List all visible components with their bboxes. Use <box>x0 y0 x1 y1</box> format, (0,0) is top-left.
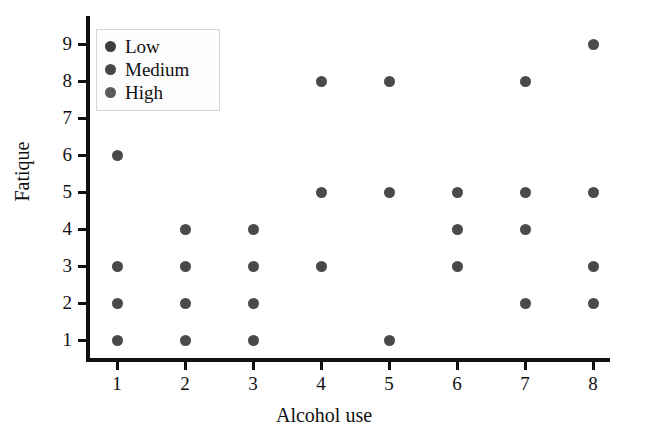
data-point <box>384 335 395 346</box>
legend-item: Medium <box>105 58 213 81</box>
legend: LowMediumHigh <box>96 29 220 111</box>
data-point <box>588 298 599 309</box>
data-point <box>384 187 395 198</box>
y-axis-tick <box>78 80 87 83</box>
data-point <box>588 261 599 272</box>
y-axis-tick <box>78 339 87 342</box>
data-point <box>112 298 123 309</box>
data-point <box>248 224 259 235</box>
x-axis-tick-label: 5 <box>374 374 404 393</box>
data-point <box>112 335 123 346</box>
x-axis-tick <box>252 361 255 370</box>
x-axis-tick-label: 2 <box>170 374 200 393</box>
x-axis-tick-label: 4 <box>306 374 336 393</box>
x-axis-tick-label: 6 <box>442 374 472 393</box>
legend-item: High <box>105 81 213 104</box>
x-axis-tick-label: 8 <box>578 374 608 393</box>
y-axis-tick <box>78 43 87 46</box>
x-axis-tick <box>388 361 391 370</box>
data-point <box>520 187 531 198</box>
data-point <box>452 261 463 272</box>
data-point <box>180 224 191 235</box>
data-point <box>520 76 531 87</box>
y-axis-tick <box>78 154 87 157</box>
data-point <box>180 261 191 272</box>
data-point <box>112 261 123 272</box>
y-axis-tick-label: 6 <box>46 145 72 164</box>
data-point <box>520 224 531 235</box>
data-point <box>248 335 259 346</box>
legend-item-label: Medium <box>125 60 189 79</box>
x-axis-line <box>86 358 610 362</box>
legend-item-label: High <box>125 83 163 102</box>
data-point <box>452 187 463 198</box>
x-axis-tick <box>184 361 187 370</box>
y-axis-tick <box>78 302 87 305</box>
y-axis-tick-label: 2 <box>46 293 72 312</box>
y-axis-tick-label: 7 <box>46 108 72 127</box>
y-axis-tick-label: 1 <box>46 330 72 349</box>
data-point <box>248 298 259 309</box>
data-point <box>588 187 599 198</box>
data-point <box>452 224 463 235</box>
y-axis-tick <box>78 191 87 194</box>
x-axis-tick <box>320 361 323 370</box>
data-point <box>316 76 327 87</box>
x-axis-tick-label: 1 <box>102 374 132 393</box>
legend-marker-icon <box>105 41 116 52</box>
x-axis-tick <box>116 361 119 370</box>
legend-item: Low <box>105 35 213 58</box>
x-axis-tick <box>456 361 459 370</box>
y-axis-tick-label: 4 <box>46 219 72 238</box>
x-axis-tick-label: 7 <box>510 374 540 393</box>
legend-marker-icon <box>105 64 116 75</box>
x-axis-tick-label: 3 <box>238 374 268 393</box>
legend-marker-icon <box>105 87 116 98</box>
data-point <box>112 150 123 161</box>
x-axis-tick <box>592 361 595 370</box>
data-point <box>384 76 395 87</box>
legend-item-label: Low <box>125 37 160 56</box>
x-axis-tick <box>524 361 527 370</box>
x-axis-title: Alcohol use <box>0 404 648 427</box>
y-axis-tick <box>78 265 87 268</box>
data-point <box>248 261 259 272</box>
y-axis-title: Fatique <box>11 92 34 252</box>
data-point <box>588 39 599 50</box>
data-point <box>180 335 191 346</box>
y-axis-tick-label: 8 <box>46 71 72 90</box>
y-axis-tick-label: 9 <box>46 34 72 53</box>
data-point <box>316 187 327 198</box>
y-axis-tick-label: 3 <box>46 256 72 275</box>
y-axis-tick <box>78 117 87 120</box>
y-axis-tick <box>78 228 87 231</box>
scatter-plot-figure: 123456789 12345678 Fatique Alcohol use L… <box>0 0 648 441</box>
y-axis-tick-label: 5 <box>46 182 72 201</box>
data-point <box>520 298 531 309</box>
data-point <box>316 261 327 272</box>
data-point <box>180 298 191 309</box>
